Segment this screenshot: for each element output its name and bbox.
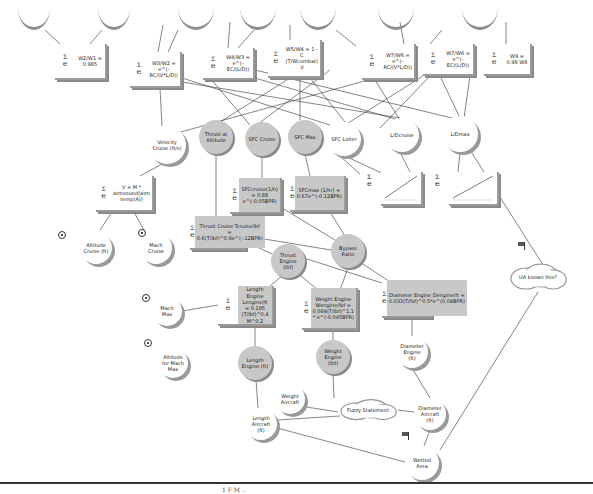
- cloud-label: Fuzzy Statement: [347, 407, 389, 413]
- variable-node-thrust_engine[interactable]: Thrust Engine (lbf): [271, 244, 305, 278]
- linear-curve-icon: [381, 172, 421, 204]
- function-label: Diameter Engine Dengine/ft = 0.033(T/lbf…: [387, 280, 467, 316]
- variable-label: Weight Aircraft: [278, 393, 302, 406]
- function-label: V = M * atmsound(atm temp(A)): [111, 176, 152, 210]
- function-icon: Σe: [302, 288, 311, 328]
- variable-node-weight_aircraft[interactable]: Weight Aircraft: [275, 384, 305, 414]
- variable-node-ld_cruise[interactable]: L/Dcruise: [385, 118, 419, 152]
- variable-label: L/Dcruise: [390, 132, 413, 138]
- function-label: W3/W2 = e^(-RC/(V*L/D)): [148, 52, 181, 86]
- variable-node-altitude_cruise[interactable]: Altitude Cruise (ft): [80, 232, 112, 264]
- function-node-weight_fn[interactable]: ΣeWeight Engine Wengine/lbf = 0.084(T/lb…: [302, 288, 358, 330]
- function-icon: Σe: [96, 176, 111, 210]
- function-node-w2w1[interactable]: ΣeW2/W1 = 0.985: [55, 44, 107, 80]
- function-node-w3w2[interactable]: ΣeW3/W2 = e^(-RC/(V*L/D)): [130, 52, 182, 88]
- variable-node-weight_engine[interactable]: Weight Engine (lbf): [316, 340, 350, 374]
- function-node-velocity[interactable]: ΣeV = M * atmsound(atm temp(A)): [96, 176, 154, 212]
- function-icon: Σe: [484, 44, 504, 74]
- function-label: SFCcruise(1/h) = 0.88 e^(-0.05BPR): [239, 178, 280, 212]
- variable-node-mach_cruise[interactable]: Mach Cruise: [140, 232, 172, 264]
- function-label: W5/W4 = 1 - C (T/Wcombat) d: [284, 40, 320, 76]
- function-icon: Σe: [367, 174, 372, 188]
- variable-label: Length Engine (ft): [241, 357, 269, 370]
- function-node-w5w4[interactable]: ΣeW5/W4 = 1 - C (T/Wcombat) d: [268, 40, 322, 78]
- variable-label: Mach Cruise: [143, 242, 169, 255]
- variable-label: SFC Max: [294, 134, 315, 140]
- chart-node-ldcruise_chart[interactable]: Σe: [449, 172, 499, 206]
- variable-node-altitude_mach_max[interactable]: Altitude for Mach Max: [158, 348, 188, 378]
- variable-label: Altitude for Mach Max: [161, 354, 185, 373]
- function-label: W7/W6 = e^(-EC/(L/D)): [443, 44, 473, 74]
- variable-node-diameter_aircraft[interactable]: Diameter Aircraft (ft): [414, 398, 446, 430]
- function-icon: Σe: [203, 48, 223, 78]
- cloud-label: UA knows this?: [519, 274, 557, 280]
- linear-curve-icon: [449, 172, 497, 204]
- variable-node-length_engine[interactable]: Length Engine (ft): [238, 346, 272, 380]
- cloud-node-ua_knows[interactable]: UA knows this?: [508, 262, 568, 292]
- function-node-w7w6a[interactable]: ΣeW7/W6 = e^(-RC/(V*L/D)): [362, 44, 416, 80]
- page-footer: 1 F M ..: [222, 486, 246, 493]
- function-icon: Σe: [218, 286, 238, 324]
- function-node-diameter_fn[interactable]: ΣeDiameter Engine Dengine/ft = 0.033(T/l…: [382, 280, 432, 318]
- function-label: SFCmax (1/hr) = 0.67e^(-0.12BPR): [295, 176, 344, 210]
- function-icon: Σe: [55, 44, 75, 78]
- function-label: Thrust Cruise Tcruise/lbf = 0.6(T/lbf)^0…: [195, 216, 265, 248]
- variable-label: Bypass Ratio: [334, 245, 362, 258]
- variable-node-mach_max[interactable]: Mach Max: [152, 296, 182, 326]
- variable-node-velocity_cruise[interactable]: Velocity Cruise (ft/s): [148, 126, 186, 164]
- variable-label: Velocity Cruise (ft/s): [151, 139, 183, 152]
- flag-icon: [402, 432, 410, 439]
- function-label: W9 = 0.98 W8: [504, 44, 530, 74]
- function-icon: Σe: [130, 52, 148, 86]
- function-node-thrust_cruise_fn[interactable]: ΣeThrust Cruise Tcruise/lbf = 0.6(T/lbf)…: [190, 216, 246, 250]
- input-marker-icon: [58, 231, 66, 239]
- variable-label: Diameter Aircraft (ft): [417, 405, 443, 424]
- variable-label: Mach Max: [155, 305, 179, 318]
- function-node-sfcmax_fn[interactable]: ΣeSFCmax (1/hr) = 0.67e^(-0.12BPR): [290, 176, 346, 212]
- variable-node-ld_max[interactable]: L/Dmax: [442, 116, 478, 152]
- variable-label: Length Aircraft (ft): [248, 415, 274, 434]
- variable-node-sfc_cruise[interactable]: SFC Cruise: [245, 122, 279, 156]
- variable-node-length_aircraft[interactable]: Length Aircraft (ft): [245, 408, 277, 440]
- variable-node-bypass_ratio[interactable]: Bypass Ratio: [331, 234, 365, 268]
- variable-label: SFC Cruise: [249, 136, 276, 142]
- chart-node-sfcloiter_chart[interactable]: Σe: [381, 172, 423, 206]
- function-node-w4w3[interactable]: ΣeW4/W3 = e^(-EC/(L/D)): [203, 48, 255, 80]
- variable-label: Altitude Cruise (ft): [83, 242, 109, 255]
- function-icon: Σe: [230, 178, 239, 212]
- function-icon: Σe: [435, 174, 440, 188]
- function-node-length_fn[interactable]: ΣeLength Engine Lengine/ft = 0.185 (T/lb…: [218, 286, 274, 326]
- function-node-sfccruise_fn[interactable]: ΣeSFCcruise(1/h) = 0.88 e^(-0.05BPR): [230, 178, 282, 214]
- function-icon: Σe: [268, 40, 284, 76]
- variable-label: Diameter Engine (ft): [399, 343, 425, 362]
- variable-node-sfc_loiter[interactable]: SFC Loiter: [327, 122, 361, 156]
- variable-label: Wetted Area: [408, 457, 436, 470]
- function-label: W4/W3 = e^(-EC/(L/D)): [223, 48, 253, 78]
- variable-label: Weight Engine (lbf): [319, 348, 347, 367]
- variable-label: SFC Loiter: [331, 136, 356, 142]
- function-label: W7/W6 = e^(-RC/(V*L/D)): [382, 44, 415, 78]
- function-label: Weight Engine Wengine/lbf = 0.084(T/lbf)…: [311, 288, 356, 328]
- input-marker-icon: [144, 339, 152, 347]
- variable-node-sfc_max[interactable]: SFC Max: [288, 120, 322, 154]
- bottom-rule: [0, 482, 593, 484]
- influence-diagram-canvas: ΣeW2/W1 = 0.985ΣeW3/W2 = e^(-RC/(V*L/D))…: [0, 0, 593, 494]
- variable-label: L/Dmax: [450, 131, 469, 137]
- input-marker-icon: [138, 229, 146, 237]
- function-icon: Σe: [362, 44, 382, 78]
- function-label: Length Engine Lengine/ft = 0.185 (T/lbf)…: [238, 286, 272, 324]
- flag-icon: [518, 242, 526, 249]
- cloud-node-fuzzy_statement[interactable]: Fuzzy Statement: [338, 398, 398, 422]
- function-node-w9[interactable]: ΣeW9 = 0.98 W8: [484, 44, 532, 76]
- function-icon: Σe: [423, 44, 443, 74]
- function-node-w7w6b[interactable]: ΣeW7/W6 = e^(-EC/(L/D)): [423, 44, 475, 76]
- variable-label: Thrust at Altitude: [202, 131, 230, 144]
- variable-node-diameter_engine[interactable]: Diameter Engine (ft): [396, 336, 428, 368]
- variable-node-wetted_area[interactable]: Wetted Area: [405, 446, 439, 480]
- function-label: W2/W1 = 0.985: [75, 44, 105, 78]
- variable-label: Thrust Engine (lbf): [274, 252, 302, 271]
- input-marker-icon: [142, 294, 150, 302]
- variable-node-thrust_altitude[interactable]: Thrust at Altitude: [199, 120, 233, 154]
